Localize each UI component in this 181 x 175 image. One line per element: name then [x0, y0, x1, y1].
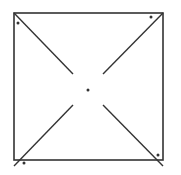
dot-top-right: [150, 16, 153, 19]
dot-top-left: [17, 22, 20, 25]
diagonal-segment-bottom-left: [14, 105, 73, 166]
diagonal-segment-top-right: [103, 13, 163, 74]
dot-center: [87, 89, 90, 92]
dot-bottom-right: [157, 154, 160, 157]
diagonal-segment-top-left: [14, 13, 73, 74]
dot-bottom-left: [23, 162, 26, 165]
square-diagram: [0, 0, 181, 175]
diagonal-segment-bottom-right: [103, 105, 163, 166]
